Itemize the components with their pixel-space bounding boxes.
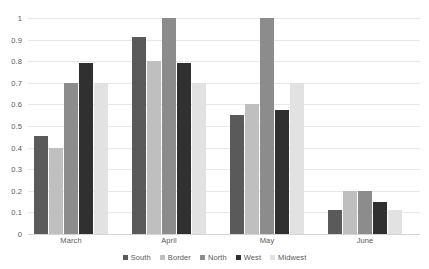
bar[interactable] (162, 18, 176, 234)
bar[interactable] (290, 83, 304, 234)
legend-swatch-icon (200, 255, 205, 260)
y-axis-tick-label: 0.9 (11, 35, 22, 44)
bar[interactable] (94, 83, 108, 234)
x-axis-tick-label: June (357, 236, 374, 245)
legend-label: North (208, 253, 227, 262)
bar[interactable] (373, 202, 387, 234)
legend-label: South (131, 253, 151, 262)
bar[interactable] (64, 83, 78, 234)
y-axis-tick-label: 0.6 (11, 100, 22, 109)
bar[interactable] (49, 148, 63, 234)
x-axis-tick-label: April (161, 236, 177, 245)
bar-group (322, 18, 420, 234)
bar[interactable] (275, 110, 289, 234)
y-axis-tick-label: 0.1 (11, 208, 22, 217)
y-axis-tick-label: 0.5 (11, 122, 22, 131)
bar[interactable] (388, 210, 402, 234)
legend-item-west[interactable]: West (236, 253, 261, 262)
bar-chart: 00.10.20.30.40.50.60.70.80.91 MarchApril… (0, 0, 429, 269)
bar[interactable] (343, 191, 357, 234)
legend-item-midwest[interactable]: Midwest (270, 253, 306, 262)
bar[interactable] (192, 83, 206, 234)
legend-label: Midwest (278, 253, 306, 262)
y-axis: 00.10.20.30.40.50.60.70.80.91 (0, 0, 26, 269)
legend-swatch-icon (123, 255, 128, 260)
y-axis-tick-label: 0.8 (11, 57, 22, 66)
legend-item-north[interactable]: North (200, 253, 227, 262)
legend-item-border[interactable]: Border (160, 253, 191, 262)
y-axis-tick-label: 0.7 (11, 78, 22, 87)
legend-swatch-icon (160, 255, 165, 260)
bar[interactable] (147, 61, 161, 234)
bars-layer (28, 18, 420, 234)
x-axis: MarchAprilMayJune (28, 236, 420, 250)
bar[interactable] (245, 104, 259, 234)
legend-label: Border (168, 253, 191, 262)
y-axis-tick-label: 1 (18, 14, 22, 23)
legend-swatch-icon (236, 255, 241, 260)
bar[interactable] (260, 18, 274, 234)
bar-group (126, 18, 224, 234)
bar[interactable] (358, 191, 372, 234)
y-axis-tick-label: 0.2 (11, 186, 22, 195)
bar[interactable] (328, 210, 342, 234)
x-axis-tick-label: May (260, 236, 274, 245)
legend-swatch-icon (270, 255, 275, 260)
bar[interactable] (230, 115, 244, 234)
y-axis-tick-label: 0 (18, 230, 22, 239)
chart-legend: SouthBorderNorthWestMidwest (0, 253, 429, 262)
y-axis-tick-label: 0.4 (11, 143, 22, 152)
bar[interactable] (79, 63, 93, 234)
x-axis-tick-label: March (60, 236, 81, 245)
axis-baseline (28, 234, 420, 235)
bar[interactable] (34, 136, 48, 234)
y-axis-tick-label: 0.3 (11, 165, 22, 174)
legend-label: West (244, 253, 261, 262)
bar[interactable] (132, 37, 146, 234)
bar-group (224, 18, 322, 234)
bar-group (28, 18, 126, 234)
legend-item-south[interactable]: South (123, 253, 151, 262)
bar[interactable] (177, 63, 191, 234)
